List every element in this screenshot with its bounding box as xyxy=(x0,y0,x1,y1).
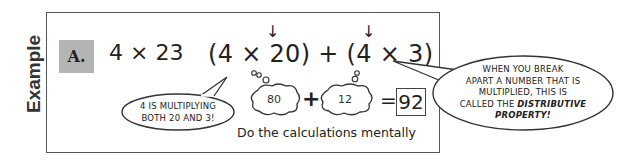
bubble-line: PROPERTY! xyxy=(447,110,599,122)
caption: Do the calculations mentally xyxy=(237,125,416,140)
bubble-line: BOTH 20 AND 3! xyxy=(126,113,230,125)
arrow-down-icon: ↓ xyxy=(266,22,279,41)
right-group: (4 × 3) xyxy=(347,40,434,68)
emphasis-term: DISTRIBUTIVE xyxy=(517,99,586,109)
thought-cloud-2-value: 12 xyxy=(338,93,352,106)
left-speech-bubble-text: 4 IS MULTIPLYING BOTH 20 AND 3! xyxy=(126,101,230,124)
bubble-line: MULTIPLIED, THIS IS xyxy=(447,87,599,99)
bubble-line: CALLED THE DISTRIBUTIVE xyxy=(447,99,599,111)
example-badge: A. xyxy=(59,40,94,73)
answer-box: 92 xyxy=(396,88,426,116)
arrow-down-icon: ↓ xyxy=(362,22,375,41)
bubble-line: WHEN YOU BREAK xyxy=(447,64,599,76)
plus-operator: + xyxy=(302,86,320,111)
left-group: (4 × 20) xyxy=(208,40,310,68)
bubble-line: APART A NUMBER THAT IS xyxy=(447,76,599,88)
problem-expression: 4 × 23 xyxy=(109,40,183,65)
thought-cloud-1-value: 80 xyxy=(267,93,281,106)
plus-sign: + xyxy=(318,40,338,68)
distributed-expression: (4 × 20) + (4 × 3) xyxy=(208,40,433,68)
right-speech-bubble-text: WHEN YOU BREAK APART A NUMBER THAT IS MU… xyxy=(447,64,599,122)
equals-operator: = xyxy=(380,88,397,112)
bubble-line: 4 IS MULTIPLYING xyxy=(126,101,230,113)
